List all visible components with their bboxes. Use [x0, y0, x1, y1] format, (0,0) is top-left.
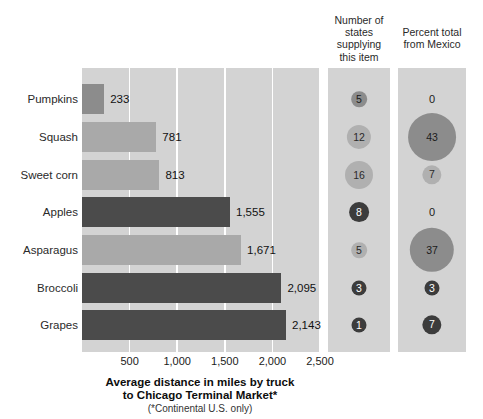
axis-title-line1: Average distance in miles by truck	[40, 376, 360, 390]
category-label: Broccoli	[0, 282, 78, 294]
axis-footnote: (*Continental U.S. only)	[40, 403, 360, 414]
gridline-2500	[319, 68, 321, 352]
mexico-bubble: 3	[425, 281, 440, 296]
category-label: Sweet corn	[0, 169, 78, 181]
states-bubble: 16	[345, 161, 373, 189]
bar	[82, 122, 156, 152]
mexico-bubble: 43	[408, 113, 456, 161]
bar	[82, 84, 104, 114]
category-label: Grapes	[0, 319, 78, 331]
bar	[82, 160, 159, 190]
bar-value-label: 781	[162, 131, 181, 143]
bar-value-label: 1,671	[247, 244, 276, 256]
column-header-mexico: Percent total from Mexico	[396, 26, 468, 50]
infographic-chart: Number of states supplying this item Per…	[0, 0, 483, 419]
bar	[82, 197, 230, 227]
bar-value-label: 1,555	[236, 206, 265, 218]
x-tick-label: 500	[120, 355, 138, 367]
mexico-bubble: 0	[429, 94, 435, 105]
states-bubble: 3	[352, 281, 367, 296]
states-bubble: 1	[352, 318, 367, 333]
mexico-bubble: 0	[429, 207, 435, 218]
bar	[82, 273, 281, 303]
bar	[82, 310, 286, 340]
states-bubble: 5	[351, 91, 367, 107]
category-label: Squash	[0, 131, 78, 143]
bar-value-label: 233	[110, 93, 129, 105]
x-tick-label: 2,500	[306, 355, 334, 367]
x-tick-label: 1,000	[163, 355, 191, 367]
x-tick-label: 2,000	[259, 355, 287, 367]
category-label: Asparagus	[0, 244, 78, 256]
states-bubble: 5	[351, 242, 367, 258]
x-tick-label: 1,500	[211, 355, 239, 367]
states-bubble: 8	[349, 202, 369, 222]
column-header-states: Number of states supplying this item	[327, 14, 391, 63]
axis-title-line2: to Chicago Terminal Market*	[40, 389, 360, 403]
category-label: Pumpkins	[0, 93, 78, 105]
category-label: Apples	[0, 206, 78, 218]
bar-value-label: 2,143	[292, 319, 321, 331]
bar-value-label: 813	[165, 169, 184, 181]
bar	[82, 235, 241, 265]
bar-value-label: 2,095	[287, 282, 316, 294]
